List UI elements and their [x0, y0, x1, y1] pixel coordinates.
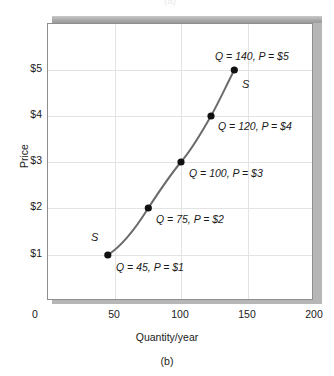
data-point-q140	[231, 66, 238, 73]
xtick-0: 0	[15, 309, 55, 320]
point-label-q100: Q = 100, P = $3	[189, 167, 263, 179]
point-label-q120: Q = 120, P = $4	[218, 120, 292, 132]
x-axis-label: Quantity/year	[117, 331, 217, 343]
data-point-q120	[207, 112, 214, 119]
xtick-50: 50	[94, 309, 134, 320]
ytick-2: $2	[8, 201, 42, 211]
supply-curve-figure: (a) Q = 140, P = $5 Q = 120, P = $4 Q = …	[0, 0, 334, 376]
figure-caption: (b)	[137, 355, 197, 367]
ytick-5: $5	[8, 63, 42, 73]
clipped-top-caption: (a)	[150, 0, 190, 6]
supply-curve-path	[108, 70, 235, 255]
xtick-200: 200	[294, 309, 334, 320]
data-point-q100	[177, 158, 184, 165]
y-axis-label: Price	[18, 126, 30, 186]
plot-area: Q = 140, P = $5 Q = 120, P = $4 Q = 100,…	[47, 23, 313, 300]
point-label-q45: Q = 45, P = $1	[116, 261, 184, 273]
curve-label-s-lower: S	[91, 231, 98, 243]
supply-curve-svg	[48, 24, 314, 301]
plot-frame-shadow-top	[52, 16, 322, 23]
ytick-4: $4	[8, 109, 42, 119]
xtick-150: 150	[227, 309, 267, 320]
point-label-q140: Q = 140, P = $5	[215, 50, 289, 62]
point-label-q75: Q = 75, P = $2	[156, 213, 224, 225]
ytick-1: $1	[8, 248, 42, 258]
curve-label-s-upper: S	[242, 78, 249, 90]
xtick-100: 100	[160, 309, 200, 320]
data-point-q75	[145, 204, 152, 211]
data-point-q45	[104, 251, 111, 258]
